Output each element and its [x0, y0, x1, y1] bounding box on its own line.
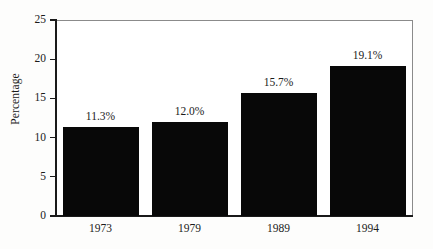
y-axis-tick-label: 5: [6, 171, 46, 183]
y-axis-tick-mark: [50, 59, 56, 60]
x-axis-tick-label: 1994: [328, 223, 408, 235]
bar-value-label: 11.3%: [61, 111, 141, 123]
plot-frame-top: [56, 20, 413, 21]
x-axis-tick-label: 1979: [150, 223, 230, 235]
bar-value-label: 15.7%: [239, 77, 319, 89]
bar: [152, 122, 228, 216]
y-axis-tick-label: 20: [6, 53, 46, 65]
y-axis-tick-mark: [50, 19, 56, 20]
y-axis-tick-mark: [50, 176, 56, 177]
bar: [330, 66, 406, 216]
x-axis-tick-label: 1973: [61, 223, 141, 235]
y-axis-tick-label: 10: [6, 132, 46, 144]
plot-frame-right: [412, 20, 413, 217]
y-axis-tick-label: 0: [6, 210, 46, 222]
y-axis-tick-label: 15: [6, 92, 46, 104]
bar-chart: Percentage 0510152025 11.3%12.0%15.7%19.…: [0, 0, 433, 249]
bar: [63, 127, 139, 216]
x-axis-tick-label: 1989: [239, 223, 319, 235]
bar-value-label: 19.1%: [328, 50, 408, 62]
bar: [241, 93, 317, 216]
bar-value-label: 12.0%: [150, 106, 230, 118]
y-axis-tick-label: 25: [6, 14, 46, 26]
y-axis-tick-mark: [50, 98, 56, 99]
y-axis-tick-mark: [50, 137, 56, 138]
y-axis-line: [55, 19, 57, 217]
y-axis-tick-mark: [50, 215, 56, 216]
